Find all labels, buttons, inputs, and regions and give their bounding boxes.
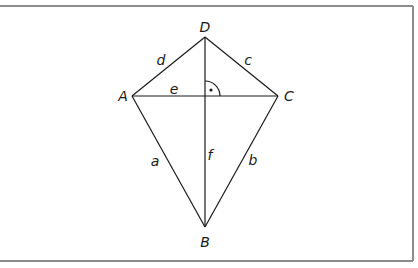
side-d (132, 37, 205, 96)
diagonal-labels: e f (170, 81, 215, 163)
right-angle-marker (205, 81, 220, 96)
right-angle-dot (209, 88, 212, 91)
vertex-label-c: C (284, 88, 294, 104)
side-b (205, 96, 278, 227)
vertex-label-b: B (200, 234, 210, 250)
figure-frame (0, 6, 413, 261)
side-label-d: d (157, 52, 166, 68)
vertex-label-a: A (117, 88, 128, 104)
diagonal-label-e: e (170, 81, 179, 97)
kite-diagonals (132, 37, 278, 227)
kite-diagram-canvas: A B C D a b c d e f (0, 0, 418, 268)
side-labels: a b c d (151, 52, 258, 169)
vertex-labels: A B C D (117, 19, 294, 250)
side-a (132, 96, 205, 227)
kite-figure: A B C D a b c d e f (0, 0, 418, 268)
side-label-a: a (151, 153, 160, 169)
side-c (205, 37, 278, 96)
right-angle-arc (205, 81, 220, 96)
side-label-b: b (249, 152, 258, 168)
diagonal-label-f: f (208, 147, 215, 163)
vertex-label-d: D (200, 19, 211, 35)
side-label-c: c (244, 52, 252, 68)
